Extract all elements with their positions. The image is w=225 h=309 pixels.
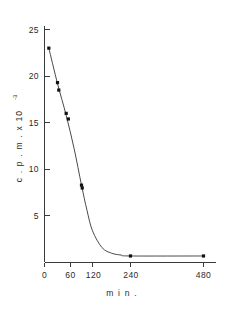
y-tick-label-10: 10 — [29, 164, 39, 174]
data-point — [67, 117, 70, 120]
x-axis-title: m i n . — [106, 288, 138, 298]
data-point — [47, 47, 50, 50]
x-tick-label-480: 480 — [196, 270, 211, 280]
data-point — [81, 186, 84, 189]
y-axis-title: c . p . m . x 10 — [14, 110, 24, 183]
y-tick-label-5: 5 — [34, 211, 39, 221]
data-point — [65, 112, 68, 115]
x-tick-label-240: 240 — [123, 270, 138, 280]
data-point — [80, 184, 83, 187]
x-tick-label-120: 120 — [86, 270, 101, 280]
data-point — [129, 254, 132, 257]
data-point — [57, 88, 60, 91]
chart-figure: 25 20 15 10 5 0 60 120 240 480 m i n . c… — [0, 0, 225, 309]
decay-chart: 25 20 15 10 5 0 60 120 240 480 m i n . c… — [0, 0, 225, 309]
x-tick-label-0: 0 — [42, 270, 47, 280]
y-tick-label-20: 20 — [29, 71, 39, 81]
y-tick-label-15: 15 — [29, 118, 39, 128]
data-point — [56, 81, 59, 84]
data-point — [202, 254, 205, 257]
y-tick-label-25: 25 — [29, 25, 39, 35]
y-axis-title-exponent: -3 — [12, 94, 18, 100]
x-tick-label-60: 60 — [65, 270, 75, 280]
